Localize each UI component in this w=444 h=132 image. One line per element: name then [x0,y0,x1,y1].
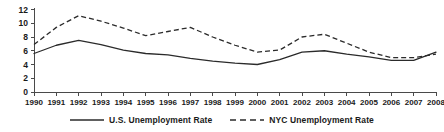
chart-figure: 024681012 199019911992199319941995199619… [0,0,444,132]
x-tick-label: 2007 [405,98,423,107]
x-tick-label: 2003 [315,98,333,107]
x-tick-label: 2006 [382,98,400,107]
x-tick-label: 1991 [47,98,65,107]
x-tick-label: 1996 [159,98,177,107]
legend-entry-us: U.S. Unemployment Rate [70,115,212,125]
series-line-nyc-unemployment-rate [34,16,436,58]
x-tick-label: 2008 [427,98,444,107]
legend-entry-nyc: NYC Unemployment Rate [230,115,374,125]
y-axis-tick-labels: 024681012 [19,5,29,98]
series-line-us-unemployment-rate [34,40,436,64]
x-tick-label: 2004 [338,98,356,107]
y-tick-label: 4 [23,60,28,70]
x-tick-label: 1995 [137,98,155,107]
legend-swatch-dashed-line-icon [230,116,264,124]
chart-legend: U.S. Unemployment Rate NYC Unemployment … [0,108,444,132]
x-tick-label: 2002 [293,98,311,107]
line-chart-svg: 024681012 199019911992199319941995199619… [0,0,444,110]
x-tick-label: 1992 [70,98,88,107]
x-axis-ticks [34,92,436,96]
x-tick-label: 1993 [92,98,110,107]
x-tick-label: 1998 [204,98,222,107]
y-tick-label: 6 [23,46,28,56]
x-tick-label: 2005 [360,98,378,107]
chart-plot-area: 024681012 199019911992199319941995199619… [0,0,444,110]
y-tick-label: 12 [19,5,29,15]
x-tick-label: 1997 [181,98,199,107]
x-axis-tick-labels: 1990199119921993199419951996199719981999… [25,98,444,107]
y-tick-label: 8 [23,32,28,42]
y-tick-label: 0 [23,87,28,97]
x-tick-label: 2001 [271,98,289,107]
x-tick-label: 1990 [25,98,43,107]
y-axis-ticks [31,10,35,93]
legend-label-us: U.S. Unemployment Rate [109,115,212,125]
x-tick-label: 1994 [114,98,132,107]
y-tick-label: 10 [19,18,29,28]
legend-label-nyc: NYC Unemployment Rate [269,115,374,125]
y-tick-label: 2 [23,73,28,83]
x-tick-label: 2000 [248,98,266,107]
x-tick-label: 1999 [226,98,244,107]
legend-swatch-solid-line-icon [70,116,104,124]
